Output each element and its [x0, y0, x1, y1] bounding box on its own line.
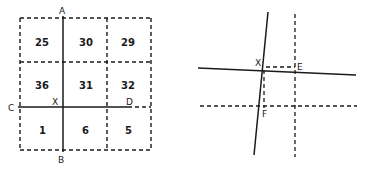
- cell-value: 31: [79, 80, 93, 91]
- right-dashed-lines: [200, 14, 357, 157]
- label-E: E: [297, 62, 303, 72]
- label-X-left: X: [52, 97, 58, 107]
- near-horizontal-solid-line: [198, 68, 356, 75]
- cell-value: 5: [125, 125, 132, 136]
- cell-value: 1: [39, 125, 46, 136]
- diagram-canvas: A B C D X 25 30 29 36 31 32 1 6 5 X E F: [0, 0, 368, 169]
- cell-value: 6: [82, 125, 89, 136]
- label-D: D: [126, 97, 133, 107]
- cell-value: 30: [79, 37, 93, 48]
- cell-value: 36: [35, 80, 49, 91]
- slanted-solid-line: [254, 12, 268, 155]
- label-F: F: [262, 109, 267, 119]
- cell-value: 29: [121, 37, 135, 48]
- cell-value: 32: [121, 80, 135, 91]
- label-B: B: [58, 155, 64, 165]
- label-A: A: [59, 6, 66, 16]
- right-figure: [198, 12, 357, 157]
- label-X-right: X: [255, 58, 261, 68]
- cell-value: 25: [35, 37, 49, 48]
- label-C: C: [8, 103, 14, 113]
